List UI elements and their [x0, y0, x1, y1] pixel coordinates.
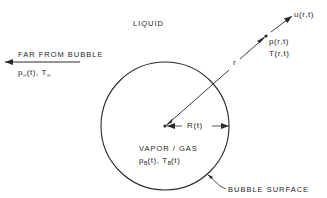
bubble-center-dot	[163, 124, 166, 127]
bubble-T-arg: (t)	[171, 156, 180, 165]
temperature-label: T(r,t)	[269, 50, 289, 58]
bubble-conditions: pB(t), TB(t)	[139, 157, 180, 166]
point-arrowhead-icon	[257, 36, 266, 43]
point-p-dot	[264, 34, 267, 37]
velocity-label: u(r,t)	[294, 11, 314, 19]
bubble-surface-label: BUBBLE SURFACE	[228, 186, 309, 194]
bubble-p-arg: (t), T	[147, 156, 167, 165]
velocity-arrow	[271, 16, 292, 32]
bubble-radius-label: R(t)	[187, 122, 203, 130]
radial-line-inner	[170, 70, 229, 122]
radial-coordinate-label: r	[233, 59, 236, 67]
far-from-bubble-label: FAR FROM BUBBLE	[18, 51, 103, 59]
far-p-arg: (t), T	[27, 68, 47, 77]
vapor-gas-label: VAPOR / GAS	[139, 145, 198, 153]
pressure-label: p(r,t)	[269, 38, 289, 46]
bubble-diagram	[0, 0, 327, 198]
far-field-conditions: p∞(t), T∞	[18, 69, 51, 78]
far-T-subscript: ∞	[47, 72, 51, 78]
liquid-label: LIQUID	[133, 20, 164, 28]
